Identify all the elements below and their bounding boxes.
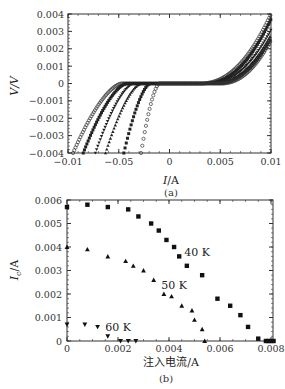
y-tick-label: 0 xyxy=(56,336,62,347)
data-point-40k xyxy=(136,214,140,218)
y-tick-label: 0.003 xyxy=(37,26,64,37)
x-tick-label: 0 xyxy=(166,156,172,167)
panel-a-y-axis-label: V/V xyxy=(8,75,21,96)
data-point-50k xyxy=(169,294,174,298)
x-tick-label: 0.006 xyxy=(206,343,233,354)
data-point-40k xyxy=(256,336,260,340)
data-point-40k xyxy=(65,205,69,209)
data-point-40k xyxy=(215,297,219,301)
panel-a-series xyxy=(71,14,272,155)
data-point-40k xyxy=(85,203,89,207)
x-tick-label: 0.005 xyxy=(207,156,234,167)
x-tick-label: 0 xyxy=(64,343,70,354)
x-tick-label: −0.01 xyxy=(53,156,82,167)
panel-b-series xyxy=(65,203,276,344)
y-tick-label: 0.005 xyxy=(35,218,62,229)
panel-b-chart: 00.0010.0020.0030.0040.0050.006 00.0020.… xyxy=(8,195,285,385)
data-point-50k xyxy=(162,292,167,296)
data-point-50k xyxy=(190,308,195,312)
panel-a-chart: 0.0040.0030.0020.0010−0.001−0.002−0.003−… xyxy=(8,9,282,199)
data-point-50k xyxy=(85,247,90,251)
panel-b-x-ticks: 00.0020.0040.0060.008 xyxy=(64,200,285,354)
data-point-50k xyxy=(179,303,184,307)
x-tick-label: 0.008 xyxy=(257,343,284,354)
y-tick-label: −0.003 xyxy=(29,130,64,141)
data-point-50k xyxy=(192,317,197,321)
panel-a-x-axis-label: I/A xyxy=(162,174,180,187)
data-point-40k xyxy=(200,273,204,277)
y-tick-label: 0.006 xyxy=(35,195,62,206)
data-point-40k xyxy=(164,238,168,242)
data-point-40k xyxy=(157,228,161,232)
data-point-60k xyxy=(65,323,70,327)
panel-b-frame xyxy=(67,200,273,341)
data-point-40k xyxy=(172,245,176,249)
x-tick-label: 0.004 xyxy=(155,343,182,354)
y-tick-label: 0 xyxy=(58,78,64,89)
y-tick-label: 0.001 xyxy=(37,61,64,72)
data-point-50k xyxy=(151,278,156,282)
y-tick-label: 0.004 xyxy=(35,242,62,253)
data-point-40k xyxy=(228,304,232,308)
x-tick-label: 0.002 xyxy=(104,343,131,354)
series-annotation: 40 K xyxy=(184,246,210,259)
series-annotation: 60 K xyxy=(105,321,131,334)
data-point-50k xyxy=(131,263,136,267)
data-point-40k xyxy=(106,205,110,209)
data-point-60k xyxy=(95,325,100,329)
series-annotation: 50 K xyxy=(161,279,187,292)
data-point-40k xyxy=(185,264,189,268)
y-tick-label: −0.002 xyxy=(29,113,64,124)
y-tick-label: 0.002 xyxy=(37,43,64,54)
panel-a-caption: (a) xyxy=(164,187,178,198)
panel-b-y-ticks: 00.0010.0020.0030.0040.0050.006 xyxy=(35,195,273,347)
y-tick-label: 0.002 xyxy=(35,289,62,300)
data-point-60k xyxy=(105,334,110,338)
data-point-40k xyxy=(246,325,250,329)
data-point-40k xyxy=(177,254,181,258)
data-point-50k xyxy=(123,259,128,263)
data-point-40k xyxy=(238,313,242,317)
x-tick-label: 0.01 xyxy=(260,156,281,167)
data-point-60k xyxy=(82,323,87,327)
data-point-40k xyxy=(126,207,130,211)
x-tick-label: −0.05 xyxy=(104,156,133,167)
y-tick-label: 0.003 xyxy=(35,265,62,276)
data-point-50k xyxy=(200,327,205,331)
y-tick-label: 0.004 xyxy=(37,9,64,20)
data-point-40k xyxy=(271,339,275,343)
y-tick-label: 0.001 xyxy=(35,312,62,323)
data-point-50k xyxy=(105,254,110,258)
y-tick-label: −0.001 xyxy=(29,95,64,106)
panel-b-x-axis-label: 注入电流/A xyxy=(143,355,200,369)
panel-b-caption: (b) xyxy=(159,373,173,384)
data-point-50k xyxy=(141,268,146,272)
figure: 0.0040.0030.0020.0010−0.001−0.002−0.003−… xyxy=(0,0,285,389)
data-point-40k xyxy=(149,221,153,225)
panel-b-y-axis-label: Ic/A xyxy=(8,259,23,282)
